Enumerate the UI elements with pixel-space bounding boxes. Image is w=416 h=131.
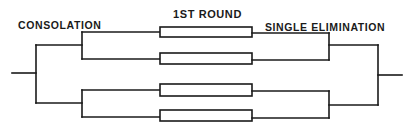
first-round-box-4 [160,110,252,121]
first-round-box-1 [160,27,252,37]
bracket-diagram [0,0,416,131]
first-round-box-3 [160,84,252,96]
first-round-box-2 [160,53,252,64]
